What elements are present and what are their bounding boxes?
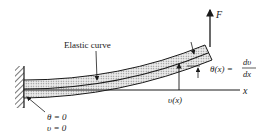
bc-theta-label: θ = 0 [47,112,67,122]
x-axis-label: x [242,85,248,96]
boundary-leader [27,97,45,112]
bc-v-label: υ = 0 [47,123,67,133]
slope-denominator: dx [243,69,251,79]
slope-lhs: θ(x) = [210,64,233,74]
slope-formula: θ(x) = dυ dx [210,57,256,79]
slope-numerator: dυ [243,57,251,67]
fixed-wall-support [15,66,24,108]
cantilever-beam-diagram: x F Elastic curve υ(x) θ(x) = dυ dx θ = … [0,0,265,140]
force-label: F [215,9,223,20]
deflection-label: υ(x) [168,95,182,105]
elastic-curve-label: Elastic curve [64,40,111,50]
